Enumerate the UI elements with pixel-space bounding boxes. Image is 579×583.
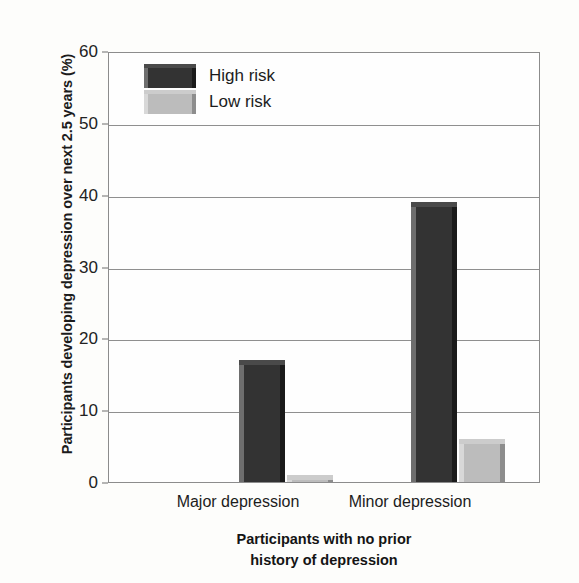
legend-swatch-high-risk bbox=[144, 64, 196, 88]
bar-major-depression-low-risk bbox=[287, 475, 333, 482]
x-axis-title-line-1: Participants with no prior bbox=[108, 529, 540, 550]
gridline-20 bbox=[109, 340, 539, 341]
category-label-minor-depression: Minor depression bbox=[349, 493, 472, 511]
bar-chart-figure: Participants developing depression over … bbox=[0, 0, 579, 583]
legend-item-low-risk: Low risk bbox=[144, 89, 275, 115]
legend-label-high-risk: High risk bbox=[209, 66, 275, 86]
y-tick-label-40: 40 bbox=[79, 186, 98, 206]
y-tick-label-30: 30 bbox=[79, 258, 98, 278]
y-tick-label-50: 50 bbox=[79, 114, 98, 134]
plot-area: High risk Low risk bbox=[108, 52, 540, 483]
bar-minor-depression-high-risk bbox=[411, 202, 457, 482]
bar-minor-depression-low-risk bbox=[459, 439, 505, 482]
legend-swatch-low-risk bbox=[144, 90, 196, 114]
x-axis-title: Participants with no prior history of de… bbox=[108, 529, 540, 570]
y-tick-label-20: 20 bbox=[79, 329, 98, 349]
gridline-40 bbox=[109, 197, 539, 198]
gridline-30 bbox=[109, 269, 539, 270]
x-axis-title-line-2: history of depression bbox=[108, 550, 540, 571]
y-tick-label-10: 10 bbox=[79, 401, 98, 421]
category-label-major-depression: Major depression bbox=[177, 493, 300, 511]
gridline-10 bbox=[109, 412, 539, 413]
gridline-50 bbox=[109, 125, 539, 126]
bar-major-depression-high-risk bbox=[239, 360, 285, 482]
legend: High risk Low risk bbox=[144, 63, 275, 115]
y-tick-label-60: 60 bbox=[79, 42, 98, 62]
legend-label-low-risk: Low risk bbox=[209, 92, 271, 112]
y-tick-label-0: 0 bbox=[89, 473, 98, 493]
y-axis-title: Participants developing depression over … bbox=[59, 19, 75, 489]
legend-item-high-risk: High risk bbox=[144, 63, 275, 89]
